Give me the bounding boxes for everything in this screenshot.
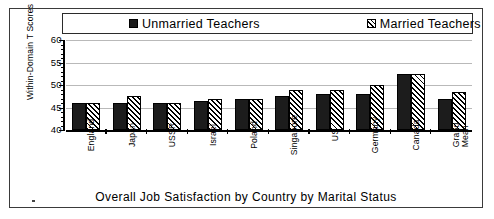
- legend-item-married: Married Teachers: [367, 17, 481, 31]
- category-label: Singapore: [269, 133, 310, 189]
- bar-group: [107, 40, 148, 130]
- category-label-text: US: [330, 129, 340, 141]
- y-minor-tick-54: [61, 67, 65, 68]
- stray-mark: [32, 200, 35, 202]
- category-label: US: [310, 133, 351, 189]
- plot-area: [66, 40, 472, 130]
- y-minor-tick-46: [61, 103, 65, 104]
- bar-unmarried: [153, 103, 167, 130]
- category-label: Israel: [188, 133, 229, 189]
- category-label-text: Japan: [127, 123, 137, 147]
- category-label-text: England: [86, 119, 96, 152]
- legend-label-married: Married Teachers: [380, 17, 481, 31]
- category-label-text: Israel: [208, 124, 218, 146]
- bar-group: [147, 40, 188, 130]
- bar-group: [228, 40, 269, 130]
- chart-caption: Overall Job Satisfaction by Country by M…: [10, 190, 482, 204]
- category-label: Germany: [350, 133, 391, 189]
- legend-label-unmarried: Unmarried Teachers: [142, 17, 260, 31]
- y-minor-tick-48: [61, 94, 65, 95]
- category-label: Grand Mean: [431, 133, 472, 189]
- bar-group: [188, 40, 229, 130]
- category-label: USSR: [147, 133, 188, 189]
- bar-unmarried: [397, 74, 411, 130]
- category-label-text: Poland: [249, 121, 259, 149]
- y-minor-tick-55: [61, 63, 65, 64]
- y-minor-tick-40: [61, 130, 65, 131]
- x-axis-category-labels: EnglandJapanUSSRIsraelPolandSingaporeUSG…: [66, 133, 472, 189]
- category-label-text: Singapore: [289, 115, 299, 156]
- category-label: Japan: [107, 133, 148, 189]
- category-label-text: Germany: [370, 117, 380, 153]
- y-minor-tick-52: [61, 76, 65, 77]
- legend-swatch-unmarried-icon: [129, 19, 138, 28]
- y-minor-tick-51: [61, 81, 65, 82]
- category-label: Canada: [391, 133, 432, 189]
- y-minor-tick-58: [61, 49, 65, 50]
- bar-married: [330, 90, 344, 131]
- y-minor-tick-47: [61, 99, 65, 100]
- y-minor-tick-41: [61, 126, 65, 127]
- y-minor-tick-59: [61, 45, 65, 46]
- y-minor-tick-57: [61, 54, 65, 55]
- y-minor-tick-45: [61, 108, 65, 109]
- legend-swatch-married-icon: [367, 19, 376, 28]
- chart-legend: Unmarried Teachers Married Teachers: [62, 13, 473, 34]
- y-minor-tick-56: [61, 58, 65, 59]
- bar-unmarried: [356, 94, 370, 130]
- category-label-text: Grand Mean: [452, 123, 470, 148]
- legend-item-unmarried: Unmarried Teachers: [129, 17, 260, 31]
- category-label-text: USSR: [167, 123, 177, 147]
- bar-series-container: [66, 40, 472, 130]
- category-label: Poland: [228, 133, 269, 189]
- category-label-text: Canada: [411, 119, 421, 150]
- chart-frame: Unmarried Teachers Married Teachers With…: [9, 8, 483, 208]
- y-minor-tick-53: [61, 72, 65, 73]
- y-minor-tick-43: [61, 117, 65, 118]
- bar-unmarried: [113, 103, 127, 130]
- bar-unmarried: [194, 101, 208, 130]
- bar-unmarried: [438, 99, 452, 131]
- bar-unmarried: [275, 96, 289, 130]
- bar-group: [310, 40, 351, 130]
- y-axis-title: Within-Domain T Scores: [25, 0, 35, 107]
- bar-group: [391, 40, 432, 130]
- bar-group: [431, 40, 472, 130]
- bar-group: [66, 40, 107, 130]
- y-minor-tick-50: [61, 85, 65, 86]
- category-label: England: [66, 133, 107, 189]
- bar-unmarried: [316, 94, 330, 130]
- y-minor-tick-44: [61, 112, 65, 113]
- bar-unmarried: [235, 99, 249, 131]
- y-minor-tick-49: [61, 90, 65, 91]
- y-minor-tick-60: [61, 40, 65, 41]
- bar-unmarried: [72, 103, 86, 130]
- y-minor-tick-42: [61, 121, 65, 122]
